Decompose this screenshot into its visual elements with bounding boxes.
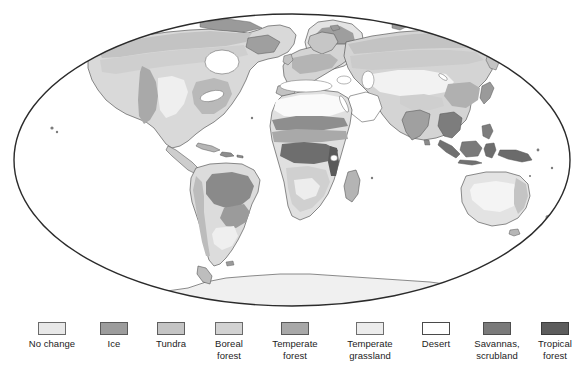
- figure-root: No change Ice Tundra Boreal forest Tempe…: [0, 0, 584, 371]
- island-falklands: [226, 261, 234, 266]
- legend-item-temperate-forest[interactable]: Temperate forest: [256, 322, 334, 361]
- island-sri-lanka: [424, 140, 430, 145]
- legend-label-boreal-forest: Boreal forest: [194, 338, 264, 361]
- island-indian-1: [371, 177, 373, 179]
- new-guinea: [498, 150, 532, 162]
- sulawesi: [484, 143, 496, 158]
- legend-item-desert[interactable]: Desert: [406, 322, 466, 350]
- tasmania: [509, 229, 520, 236]
- java: [458, 160, 482, 165]
- legend-swatch-no-change: [38, 322, 66, 335]
- region-australia: [461, 172, 562, 236]
- landmass-group: [12, 19, 572, 312]
- mediterranean-sea: [280, 80, 332, 92]
- sumatra: [438, 140, 460, 158]
- region-south-america: [190, 163, 260, 266]
- black-sea: [337, 76, 351, 84]
- legend-label-desert: Desert: [406, 338, 466, 350]
- legend-label-tropical-forest: Tropical forest: [527, 338, 583, 361]
- legend-swatch-tropical-forest: [541, 322, 569, 335]
- map-legend: No change Ice Tundra Boreal forest Tempe…: [0, 314, 584, 371]
- madagascar: [344, 170, 360, 202]
- legend-swatch-temperate-grassland: [356, 322, 384, 335]
- caspian-sea: [362, 71, 374, 89]
- lake-victoria: [331, 155, 338, 161]
- region-caribbean: [196, 143, 243, 158]
- antarctic-peninsula: [197, 266, 212, 284]
- legend-item-tropical-forest[interactable]: Tropical forest: [527, 322, 583, 361]
- philippines: [482, 124, 493, 139]
- legend-swatch-savannas-scrubland: [483, 322, 511, 335]
- central-america: [166, 146, 198, 174]
- legend-swatch-temperate-forest: [281, 322, 309, 335]
- legend-swatch-boreal-forest: [215, 322, 243, 335]
- hispaniola: [220, 152, 234, 157]
- island-hawaii-2: [56, 131, 58, 133]
- borneo: [460, 141, 482, 157]
- legend-item-savannas-scrubland[interactable]: Savannas, scrubland: [458, 322, 536, 361]
- legend-label-savannas-scrubland: Savannas, scrubland: [458, 338, 536, 361]
- cuba: [196, 143, 220, 152]
- japan: [480, 82, 494, 104]
- legend-swatch-ice: [100, 322, 128, 335]
- hudson-bay: [205, 50, 239, 74]
- legend-swatch-tundra: [157, 322, 185, 335]
- puerto-rico: [237, 155, 243, 158]
- legend-item-boreal-forest[interactable]: Boreal forest: [194, 322, 264, 361]
- island-hawaii: [50, 126, 53, 129]
- legend-label-temperate-forest: Temperate forest: [256, 338, 334, 361]
- europe-temperate-forest: [292, 54, 338, 74]
- legend-swatch-desert: [422, 322, 450, 335]
- island-pacific-3: [529, 175, 531, 177]
- region-antarctica: [12, 266, 572, 312]
- island-atlantic-1: [251, 117, 253, 119]
- world-map-svg: [0, 0, 584, 312]
- legend-item-temperate-grassland[interactable]: Temperate grassland: [329, 322, 411, 361]
- legend-label-temperate-grassland: Temperate grassland: [329, 338, 411, 361]
- island-pacific-2: [551, 167, 553, 169]
- world-map-panel: [0, 0, 584, 312]
- island-pacific-1: [537, 149, 540, 152]
- arabia: [346, 92, 382, 122]
